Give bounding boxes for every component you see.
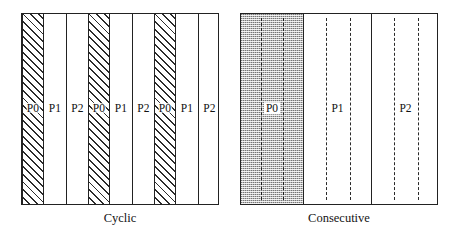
stripe-cyclic-3: P0 xyxy=(88,14,110,204)
stripe-label: P2 xyxy=(199,103,220,115)
stripe-cyclic-4: P1 xyxy=(110,14,132,204)
stripe-label: P2 xyxy=(67,103,88,115)
stripe-cyclic-6: P0 xyxy=(154,14,176,204)
stripe-label: P2 xyxy=(133,103,154,115)
panel-consecutive: P0 P1 P2 xyxy=(240,13,438,205)
block-label: P2 xyxy=(372,103,439,115)
stripe-label: P1 xyxy=(176,103,198,115)
block-label: P1 xyxy=(304,103,371,115)
stripe-cyclic-2: P2 xyxy=(66,14,88,204)
stripe-label: P1 xyxy=(44,103,66,115)
stripe-cyclic-1: P1 xyxy=(44,14,66,204)
block-consecutive-2: P2 xyxy=(371,14,439,204)
stripe-cyclic-8: P2 xyxy=(198,14,220,204)
figure-partition-layouts: P0 P1 P2 P0 P1 P2 P0 P1 P2 Cyclic xyxy=(0,0,465,239)
block-consecutive-1: P1 xyxy=(303,14,371,204)
stripe-label: P0 xyxy=(23,103,43,115)
stripe-label: P0 xyxy=(155,103,175,115)
stripe-cyclic-7: P1 xyxy=(176,14,198,204)
block-consecutive-0: P0 xyxy=(241,14,303,204)
stripe-cyclic-5: P2 xyxy=(132,14,154,204)
stripe-label: P0 xyxy=(89,103,109,115)
stripe-label: P1 xyxy=(110,103,132,115)
caption-consecutive: Consecutive xyxy=(240,212,438,225)
caption-cyclic: Cyclic xyxy=(21,212,219,225)
panel-cyclic: P0 P1 P2 P0 P1 P2 P0 P1 P2 xyxy=(21,13,219,205)
stripe-cyclic-0: P0 xyxy=(22,14,44,204)
block-label: P0 xyxy=(241,103,303,115)
